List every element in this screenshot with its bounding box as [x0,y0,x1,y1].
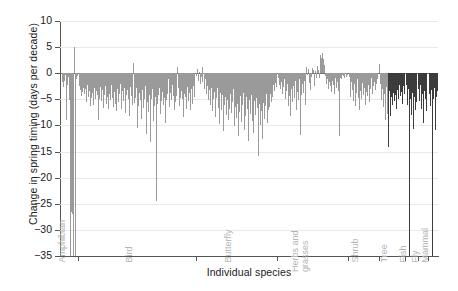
x-axis-tick [428,256,429,261]
gridline [60,125,438,126]
y-axis-tick-label: 0 [18,66,52,78]
y-axis-tick-label: −5 [18,92,52,104]
bar [437,73,438,91]
y-axis-tick-label: −10 [18,118,52,130]
bar [379,64,380,73]
y-axis-tick-label: 10 [18,14,52,26]
gridline [60,47,438,48]
gridline [60,178,438,179]
y-axis-tick-label: −30 [18,223,52,235]
y-axis-ticks: 1050−5−10−15−20−25−30−35 [0,0,58,291]
x-axis-tick [418,256,419,261]
x-axis-tick [196,256,197,261]
plot-area: AmphibianBirdButterflyHerbs and grassesS… [60,21,438,256]
bar [404,73,405,94]
bar [276,73,277,87]
bar [416,73,417,102]
bar [74,47,75,74]
gridline [60,152,438,153]
x-axis-title: Individual species [60,266,438,278]
y-axis-tick-label: −15 [18,145,52,157]
y-axis-tick-label: −35 [18,249,52,261]
y-axis-tick-label: 5 [18,40,52,52]
bar [194,73,195,97]
group-label-fish: Fish [399,245,409,262]
y-axis-tick-label: −25 [18,197,52,209]
group-label-amphibian: Amphibian [57,220,67,263]
bar [409,73,410,256]
bar [132,73,133,91]
bar [133,63,134,73]
x-axis-tick [78,256,79,261]
bar [316,73,317,78]
bar [311,73,312,77]
bar [176,73,177,95]
bar [314,73,315,80]
bar [319,73,320,78]
bar [377,73,378,79]
gridline [60,204,438,205]
chart-root: Change in spring timing (days per decade… [0,0,458,291]
bar [426,73,427,111]
x-axis-tick [277,256,278,261]
bar [305,73,306,88]
bar [196,73,197,76]
group-label-shrub: Shrub [351,238,361,262]
group-label-butterfly: Butterfly [224,229,234,262]
x-axis-tick [405,256,406,261]
y-axis-tick-label: −20 [18,171,52,183]
group-label-tree: Tree [379,244,389,262]
bar [198,73,199,80]
bar [324,65,325,73]
bar [432,73,433,256]
group-label-bird: Bird [124,246,134,262]
gridline [60,230,438,231]
bar [307,73,308,75]
bar [347,73,348,75]
gridline [60,21,438,22]
x-axis-tick [379,256,380,261]
bar [77,73,78,76]
bar [202,73,203,82]
bar [75,73,76,256]
x-axis-tick [348,256,349,261]
bar [201,73,202,77]
bar [73,73,74,256]
